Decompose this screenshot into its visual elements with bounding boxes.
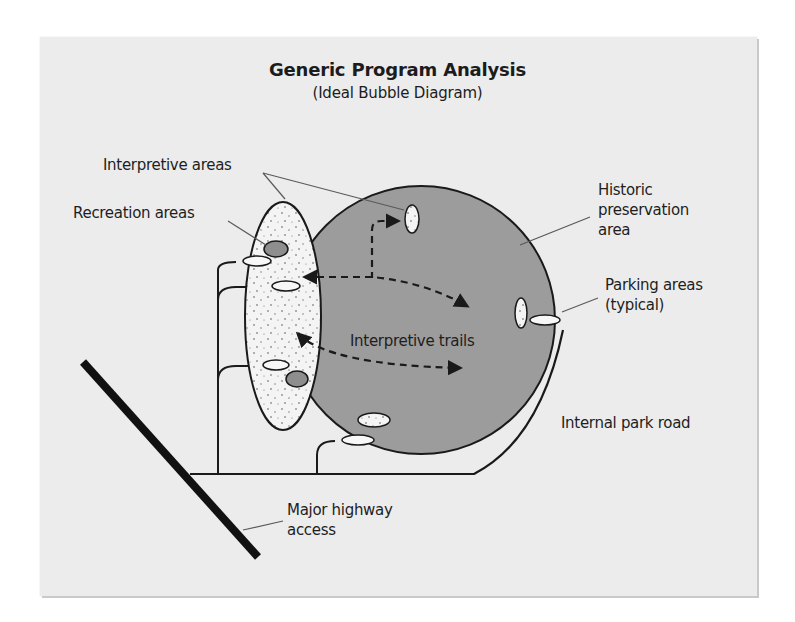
major-highway	[83, 362, 258, 557]
parking-area-5	[530, 315, 560, 325]
label-major-highway-access: Major highway access	[287, 500, 393, 540]
parking-area-2	[272, 281, 300, 291]
label-recreation-areas: Recreation areas	[73, 203, 194, 223]
leader-highway	[243, 521, 283, 530]
interpretive-area-bottom	[358, 413, 390, 427]
label-internal-park-road: Internal park road	[561, 413, 690, 433]
label-historic-preservation: Historic preservation area	[598, 180, 689, 240]
road-spur-bottom	[317, 441, 335, 474]
label-interpretive-trails: Interpretive trails	[350, 331, 474, 351]
historic-preservation-area	[287, 186, 555, 454]
diagram-subtitle: (Ideal Bubble Diagram)	[0, 84, 795, 102]
interpretive-zone	[245, 202, 321, 430]
diagram-title: Generic Program Analysis	[0, 59, 795, 80]
leader-parking	[562, 298, 598, 312]
label-interpretive-areas: Interpretive areas	[103, 155, 232, 175]
recreation-area-2	[286, 371, 308, 387]
interpretive-area-right	[515, 298, 527, 328]
recreation-area-1	[264, 241, 288, 257]
parking-area-4	[342, 435, 374, 445]
leader-historic	[520, 217, 590, 245]
parking-area-3	[263, 360, 289, 370]
parking-area-1	[243, 256, 271, 266]
label-parking-areas: Parking areas (typical)	[605, 275, 703, 315]
leader-interpretive-1	[263, 173, 285, 199]
interpretive-area-top	[405, 205, 419, 233]
